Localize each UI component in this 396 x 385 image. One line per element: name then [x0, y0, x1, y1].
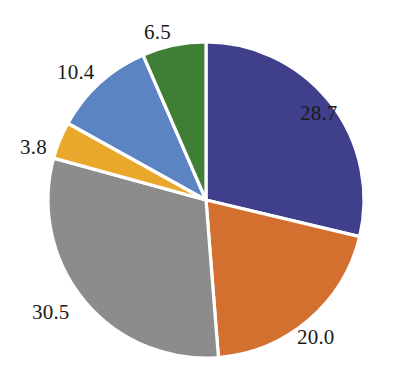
pie-chart-figure: 28.7 20.0 30.5 3.8 10.4 6.5: [0, 0, 396, 385]
pie-slice-group: [48, 42, 364, 358]
slice-value-label-gray: 30.5: [32, 302, 70, 323]
slice-value-label-orange: 20.0: [297, 327, 335, 348]
pie-chart-canvas: [0, 0, 396, 385]
slice-value-label-dark-blue: 28.7: [300, 103, 338, 124]
slice-value-label-green: 6.5: [144, 22, 171, 43]
slice-value-label-medium-blue: 10.4: [57, 62, 95, 83]
slice-value-label-amber: 3.8: [20, 137, 47, 158]
